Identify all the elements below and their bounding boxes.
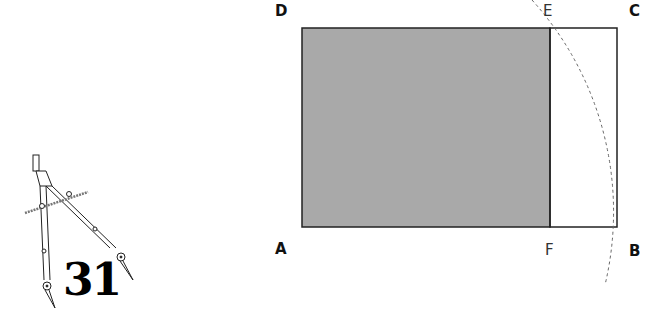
label-B: B xyxy=(629,242,640,260)
rectangle-FBCE xyxy=(550,28,617,227)
label-E: E xyxy=(543,2,552,20)
square-AFED xyxy=(302,28,550,227)
label-A: A xyxy=(275,240,287,258)
label-D: D xyxy=(275,2,287,20)
figure-number: 31 xyxy=(63,258,120,302)
label-F: F xyxy=(545,241,554,259)
label-C: C xyxy=(629,2,640,20)
